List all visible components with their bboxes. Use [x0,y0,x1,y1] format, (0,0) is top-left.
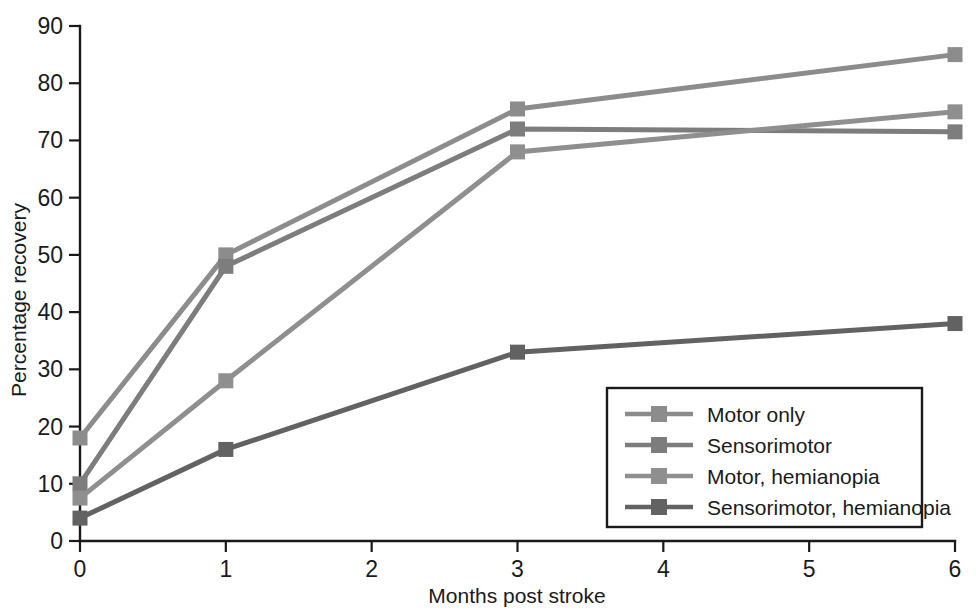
data-point-marker [510,144,525,159]
data-point-marker [218,259,233,274]
legend-item-label: Motor, hemianopia [707,465,880,488]
data-point-marker [948,316,963,331]
y-tick-label: 50 [37,242,63,268]
data-point-marker [510,345,525,360]
y-tick-label: 80 [37,70,63,96]
x-tick-label: 0 [74,556,87,582]
y-tick-label: 60 [37,185,63,211]
y-axis: 0102030405060708090 [37,13,80,554]
data-point-marker [948,47,963,62]
y-tick-label: 0 [50,528,63,554]
data-point-marker [948,104,963,119]
chart-figure: 0102030405060708090 0123456 Percentage r… [0,0,976,614]
legend-item-label: Motor only [707,403,806,426]
chart-legend: Motor onlySensorimotorMotor, hemianopiaS… [607,388,951,527]
series-1 [73,47,963,445]
legend-swatch-marker [651,406,667,422]
data-point-marker [73,511,88,526]
x-tick-label: 4 [657,556,670,582]
data-point-marker [510,122,525,137]
y-axis-title: Percentage recovery [7,203,30,397]
y-tick-label: 90 [37,13,63,39]
data-point-marker [73,476,88,491]
x-tick-label: 2 [365,556,378,582]
y-tick-label: 40 [37,299,63,325]
data-point-marker [73,431,88,446]
data-point-marker [218,373,233,388]
y-tick-label: 10 [37,471,63,497]
x-axis: 0123456 [74,541,962,582]
legend-swatch-marker [651,499,667,515]
x-tick-label: 6 [949,556,962,582]
legend-item-label: Sensorimotor [707,434,832,457]
x-tick-label: 1 [219,556,232,582]
x-tick-label: 3 [511,556,524,582]
legend-swatch-marker [651,437,667,453]
y-tick-label: 20 [37,414,63,440]
y-tick-label: 70 [37,127,63,153]
legend-swatch-marker [651,468,667,484]
line-chart: 0102030405060708090 0123456 Percentage r… [0,0,976,614]
x-axis-title: Months post stroke [428,584,605,607]
data-point-marker [948,124,963,139]
data-point-marker [218,442,233,457]
data-point-marker [73,491,88,506]
legend-item-label: Sensorimotor, hemianopia [707,496,951,519]
data-point-marker [510,101,525,116]
y-tick-label: 30 [37,356,63,382]
x-tick-label: 5 [803,556,816,582]
